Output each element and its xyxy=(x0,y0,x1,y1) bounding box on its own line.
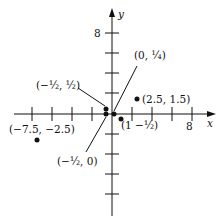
y-tick-8: 8 xyxy=(94,27,101,39)
y-label: y xyxy=(117,8,125,20)
label-neghalf-half: (−½, ½) xyxy=(36,79,80,91)
label-2.5-1.5: (2.5, 1.5) xyxy=(142,93,190,105)
y-arrow-icon xyxy=(109,8,115,17)
label-0-quarter: (0, ¼) xyxy=(134,49,166,61)
label-1-neghalf: (1 −½) xyxy=(121,119,158,131)
label-neg7.5: (−7.5, −2.5) xyxy=(9,123,75,135)
coordinate-plane: y x 8 8 (2.5, 1.5) (−7.5, −2.5) (1 −½) (… xyxy=(0,0,223,218)
x-label: x xyxy=(207,117,213,129)
x-tick-8: 8 xyxy=(186,120,193,132)
label-neghalf-0: (−½, 0) xyxy=(57,155,98,167)
